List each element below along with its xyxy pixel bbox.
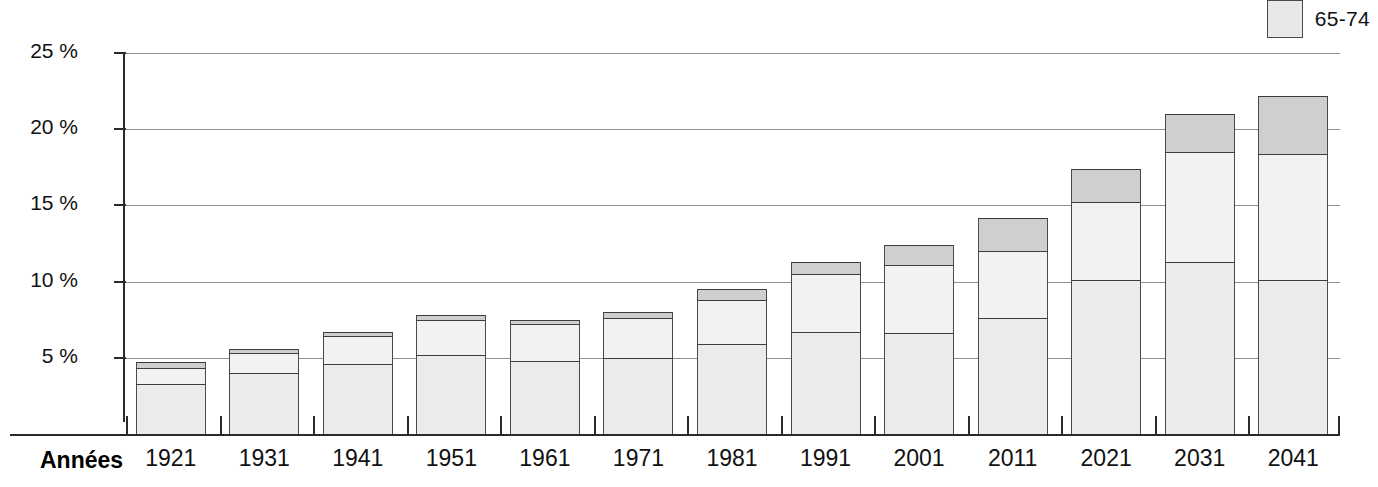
x-axis-label-2041: 2041 <box>1246 445 1340 472</box>
x-axis-line <box>10 434 1340 436</box>
bar-segment-2001-75-84[interactable] <box>884 265 954 334</box>
x-axis-label-2031: 2031 <box>1153 445 1247 472</box>
bar-segment-2011-75-84[interactable] <box>978 251 1048 318</box>
x-axis-label-1991: 1991 <box>779 445 873 472</box>
bar-segment-2041-85+[interactable] <box>1258 96 1328 154</box>
bar-segment-2031-75-84[interactable] <box>1165 152 1235 262</box>
bar-segment-1951-65-74[interactable] <box>416 355 486 434</box>
bar-segment-1921-65-74[interactable] <box>136 384 206 434</box>
x-axis-label-1921: 1921 <box>124 445 218 472</box>
y-axis-label-20: 20 % <box>30 115 78 139</box>
bar-segment-1931-65-74[interactable] <box>229 373 299 434</box>
x-tick-1961 <box>500 416 502 434</box>
bar-1921[interactable] <box>136 362 206 434</box>
x-axis-label-1951: 1951 <box>405 445 499 472</box>
legend-swatch-65-74 <box>1267 0 1303 38</box>
bar-1961[interactable] <box>510 320 580 434</box>
bar-segment-1991-75-84[interactable] <box>791 274 861 332</box>
stacked-bar-chart: 65-74 5 %10 %15 %20 %25 % Années 1921193… <box>0 0 1378 487</box>
x-tick-1951 <box>407 416 409 434</box>
bar-segment-1951-75-84[interactable] <box>416 320 486 355</box>
x-tick-1931 <box>220 416 222 434</box>
x-axis-label-1981: 1981 <box>685 445 779 472</box>
x-tick-1981 <box>687 416 689 434</box>
bar-2031[interactable] <box>1165 114 1235 434</box>
bar-segment-2041-65-74[interactable] <box>1258 280 1328 434</box>
x-axis-label-1971: 1971 <box>592 445 686 472</box>
x-tick-2031 <box>1155 416 1157 434</box>
bar-2011[interactable] <box>978 218 1048 434</box>
x-axis-labels: Années 192119311941195119611971198119912… <box>0 443 1378 487</box>
bar-segment-2011-65-74[interactable] <box>978 318 1048 434</box>
bar-segment-1931-75-84[interactable] <box>229 353 299 373</box>
bar-segment-1981-85+[interactable] <box>697 289 767 300</box>
bar-segment-2001-65-74[interactable] <box>884 333 954 434</box>
bar-segment-1991-65-74[interactable] <box>791 332 861 434</box>
bar-segment-1921-85+[interactable] <box>136 362 206 368</box>
bar-1941[interactable] <box>323 332 393 434</box>
bar-segment-1961-85+[interactable] <box>510 320 580 325</box>
y-axis-label-15: 15 % <box>30 191 78 215</box>
bar-segment-1971-85+[interactable] <box>603 312 673 318</box>
bar-1981[interactable] <box>697 289 767 434</box>
x-tick-2001 <box>874 416 876 434</box>
bar-segment-2011-85+[interactable] <box>978 218 1048 252</box>
bar-segment-1931-85+[interactable] <box>229 349 299 354</box>
x-axis-label-1941: 1941 <box>311 445 405 472</box>
x-tick-1991 <box>781 416 783 434</box>
bar-segment-2021-85+[interactable] <box>1071 169 1141 203</box>
bar-segment-2021-65-74[interactable] <box>1071 280 1141 434</box>
x-tick-1921 <box>126 416 128 434</box>
bar-segment-1961-75-84[interactable] <box>510 324 580 361</box>
x-axis-label-2021: 2021 <box>1059 445 1153 472</box>
x-tick-2021 <box>1061 416 1063 434</box>
x-axis-label-2001: 2001 <box>872 445 966 472</box>
bar-segment-2001-85+[interactable] <box>884 245 954 265</box>
x-tick-1941 <box>313 416 315 434</box>
legend-label-65-74: 65-74 <box>1315 7 1370 31</box>
bar-segment-2041-75-84[interactable] <box>1258 154 1328 280</box>
bar-segment-1941-65-74[interactable] <box>323 364 393 434</box>
bar-segment-1971-65-74[interactable] <box>603 358 673 434</box>
bar-segment-1941-75-84[interactable] <box>323 336 393 363</box>
bar-segment-1981-75-84[interactable] <box>697 300 767 344</box>
x-tick-end <box>1338 416 1340 434</box>
x-tick-1971 <box>594 416 596 434</box>
bar-segment-1971-75-84[interactable] <box>603 318 673 358</box>
bar-1971[interactable] <box>603 312 673 434</box>
y-axis-label-25: 25 % <box>30 39 78 63</box>
bar-2021[interactable] <box>1071 169 1141 434</box>
x-axis-label-2011: 2011 <box>966 445 1060 472</box>
x-axis-title: Années <box>40 447 123 474</box>
bar-1931[interactable] <box>229 349 299 434</box>
bar-segment-1961-65-74[interactable] <box>510 361 580 434</box>
bar-segment-1941-85+[interactable] <box>323 332 393 337</box>
chart-legend: 65-74 <box>1267 0 1370 38</box>
bar-segment-2031-65-74[interactable] <box>1165 262 1235 434</box>
bar-segment-1981-65-74[interactable] <box>697 344 767 434</box>
x-tick-2041 <box>1248 416 1250 434</box>
bar-segment-1951-85+[interactable] <box>416 315 486 320</box>
bar-2001[interactable] <box>884 245 954 434</box>
bar-segment-1921-75-84[interactable] <box>136 368 206 383</box>
x-axis-label-1931: 1931 <box>218 445 312 472</box>
y-axis-label-5: 5 % <box>42 344 78 368</box>
bar-1951[interactable] <box>416 315 486 434</box>
x-axis-label-1961: 1961 <box>498 445 592 472</box>
bar-segment-2031-85+[interactable] <box>1165 114 1235 152</box>
bar-segment-2021-75-84[interactable] <box>1071 202 1141 280</box>
bars-container <box>124 53 1340 434</box>
y-axis-label-10: 10 % <box>30 268 78 292</box>
bar-segment-1991-85+[interactable] <box>791 262 861 274</box>
x-tick-2011 <box>968 416 970 434</box>
bar-2041[interactable] <box>1258 96 1328 434</box>
bar-1991[interactable] <box>791 262 861 434</box>
